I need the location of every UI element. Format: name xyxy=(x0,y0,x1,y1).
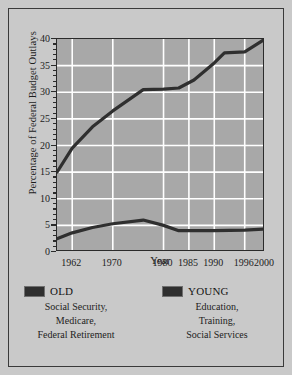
legend-sub-young-2: Training, xyxy=(162,314,270,328)
y-tick-mark-minor xyxy=(53,123,56,124)
y-tick-mark-minor xyxy=(53,166,56,167)
y-tick-mark-major xyxy=(51,251,56,252)
y-tick-mark-major xyxy=(51,224,56,225)
chart-area: Percentage of Federal Budget Outlays 051… xyxy=(9,9,285,277)
y-tick-mark-minor xyxy=(53,49,56,50)
y-tick-mark-major xyxy=(51,38,56,39)
y-tick-label: 30 xyxy=(40,86,50,97)
y-tick-label: 25 xyxy=(40,112,50,123)
y-tick-mark-minor xyxy=(53,246,56,247)
y-tick-mark-minor xyxy=(53,208,56,209)
y-tick-label: 10 xyxy=(40,192,50,203)
y-tick-label: 15 xyxy=(40,166,50,177)
legend-sub-young-1: Education, xyxy=(162,300,270,314)
y-tick-label: 0 xyxy=(45,246,50,257)
y-tick-mark-minor xyxy=(53,129,56,130)
y-tick-mark-minor xyxy=(53,187,56,188)
y-tick-mark-minor xyxy=(53,54,56,55)
legend-sub-old-1: Social Security, xyxy=(24,300,132,314)
y-tick-mark-minor xyxy=(53,81,56,82)
legend-swatch-icon-young xyxy=(162,286,183,297)
y-tick-mark-minor xyxy=(53,139,56,140)
plot-wrapper: 0510152025303540 19621970198019851990199… xyxy=(56,38,264,251)
y-tick-mark-minor xyxy=(53,102,56,103)
y-tick-mark-minor xyxy=(53,43,56,44)
legend-entry-young: YOUNG Education, Training, Social Servic… xyxy=(162,285,270,343)
y-tick-mark-major xyxy=(51,145,56,146)
y-tick-label: 5 xyxy=(45,219,50,230)
y-tick-mark-minor xyxy=(53,75,56,76)
y-tick-mark-minor xyxy=(53,70,56,71)
y-tick-mark-minor xyxy=(53,240,56,241)
y-tick-mark-minor xyxy=(53,97,56,98)
y-tick-mark-minor xyxy=(53,150,56,151)
y-tick-mark-minor xyxy=(53,214,56,215)
y-tick-mark-minor xyxy=(53,219,56,220)
y-axis-title: Percentage of Federal Budget Outlays xyxy=(27,35,38,195)
legend-sub-young-3: Social Services xyxy=(162,328,270,342)
y-tick-mark-minor xyxy=(53,235,56,236)
y-tick-mark-minor xyxy=(53,134,56,135)
legend-label-young: YOUNG xyxy=(188,285,229,297)
chart-legend: OLD Social Security, Medicare, Federal R… xyxy=(9,285,285,343)
y-tick-mark-minor xyxy=(53,86,56,87)
plot-area xyxy=(56,38,264,251)
y-tick-mark-minor xyxy=(53,59,56,60)
y-tick-mark-major xyxy=(51,171,56,172)
series-canvas xyxy=(57,39,264,251)
y-tick-label: 20 xyxy=(40,139,50,150)
legend-label-old: OLD xyxy=(50,285,73,297)
y-tick-mark-minor xyxy=(53,113,56,114)
legend-head-old: OLD xyxy=(24,285,132,297)
legend-entry-old: OLD Social Security, Medicare, Federal R… xyxy=(24,285,132,343)
y-tick-mark-major xyxy=(51,198,56,199)
y-tick-mark-minor xyxy=(53,203,56,204)
y-tick-label: 40 xyxy=(40,33,50,44)
y-tick-mark-minor xyxy=(53,176,56,177)
y-tick-mark-minor xyxy=(53,192,56,193)
y-tick-mark-major xyxy=(51,65,56,66)
y-tick-mark-minor xyxy=(53,107,56,108)
legend-head-young: YOUNG xyxy=(162,285,270,297)
legend-sub-old-3: Federal Retirement xyxy=(24,328,132,342)
x-axis-title: Year xyxy=(56,255,264,266)
y-tick-mark-minor xyxy=(53,160,56,161)
y-tick-mark-major xyxy=(51,91,56,92)
legend-swatch-icon-old xyxy=(24,286,45,297)
y-tick-mark-minor xyxy=(53,230,56,231)
legend-sub-old-2: Medicare, xyxy=(24,314,132,328)
y-tick-mark-major xyxy=(51,118,56,119)
y-tick-mark-minor xyxy=(53,155,56,156)
y-tick-mark-minor xyxy=(53,182,56,183)
figure-panel: Percentage of Federal Budget Outlays 051… xyxy=(8,8,284,367)
y-tick-label: 35 xyxy=(40,59,50,70)
